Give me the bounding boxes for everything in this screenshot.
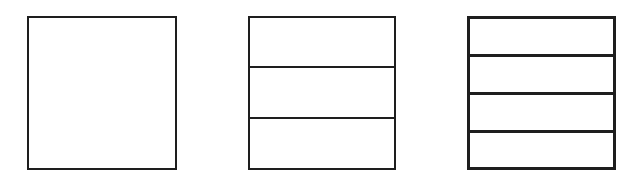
rectangle-4-sections xyxy=(467,16,616,170)
section-divider xyxy=(470,54,613,57)
section-divider xyxy=(250,117,394,120)
section-divider xyxy=(250,66,394,69)
rectangle-3-sections xyxy=(248,16,396,170)
rectangle-1-section xyxy=(27,16,177,170)
section-divider xyxy=(470,92,613,95)
section-divider xyxy=(470,130,613,133)
